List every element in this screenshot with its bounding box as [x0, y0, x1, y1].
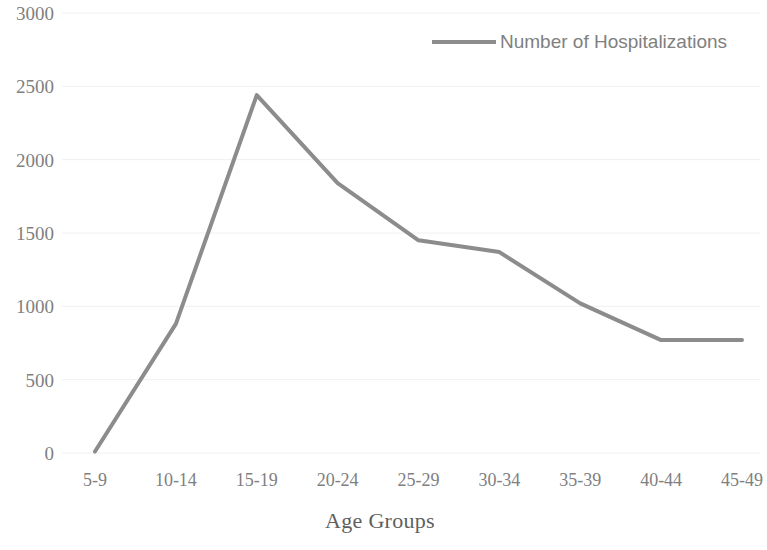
- x-axis-tick-25-29: 25-29: [379, 471, 459, 489]
- y-axis-tick-500: 500: [0, 371, 54, 390]
- y-axis-tick-1000: 1000: [0, 297, 54, 316]
- y-axis-tick-1500: 1500: [0, 224, 54, 243]
- x-axis-tick-40-44: 40-44: [621, 471, 701, 489]
- x-axis-title: Age Groups: [0, 508, 760, 534]
- x-axis-tick-10-14: 10-14: [136, 471, 216, 489]
- x-axis-tick-20-24: 20-24: [298, 471, 378, 489]
- series-line-number-of-hospitalizations: [95, 95, 742, 451]
- x-axis-tick-15-19: 15-19: [217, 471, 297, 489]
- y-axis-tick-0: 0: [0, 444, 54, 463]
- y-axis-tick-2500: 2500: [0, 77, 54, 96]
- y-axis-tick-3000: 3000: [0, 4, 54, 23]
- y-axis-tick-2000: 2000: [0, 151, 54, 170]
- x-axis-tick-5-9: 5-9: [55, 471, 135, 489]
- x-axis-tick-30-34: 30-34: [459, 471, 539, 489]
- x-axis-tick-35-39: 35-39: [540, 471, 620, 489]
- x-axis-tick-45-49: 45-49: [702, 471, 767, 489]
- gridlines: [62, 13, 760, 453]
- legend-line-swatch: [432, 40, 496, 44]
- legend-label: Number of Hospitalizations: [500, 31, 727, 53]
- chart-legend: Number of Hospitalizations: [432, 30, 727, 54]
